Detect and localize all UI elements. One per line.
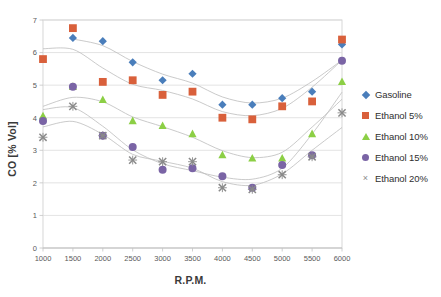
data-point-ethanol-5 — [248, 115, 256, 123]
x-tick-label: 3500 — [184, 254, 201, 263]
x-axis-title: R.P.M. — [175, 274, 207, 286]
x-tick-label: 3000 — [154, 254, 171, 263]
data-point-ethanol-20 — [278, 170, 287, 179]
data-point-ethanol-5 — [69, 24, 77, 32]
data-point-ethanol-5 — [129, 76, 137, 84]
y-tick-label: 4 — [33, 114, 37, 123]
data-point-ethanol-5 — [189, 88, 197, 96]
data-point-ethanol-15 — [278, 161, 286, 169]
y-tick-label: 7 — [33, 16, 37, 25]
data-point-ethanol-5 — [159, 91, 167, 99]
data-point-ethanol-20 — [128, 156, 137, 165]
legend-item-ethanol-5[interactable]: Ethanol 5% — [360, 105, 440, 126]
data-point-ethanol-20 — [218, 183, 227, 192]
data-point-ethanol-20 — [338, 108, 347, 117]
data-point-ethanol-15 — [159, 166, 167, 174]
data-point-ethanol-15 — [218, 172, 226, 180]
data-point-ethanol-15 — [338, 57, 346, 65]
x-tick-label: 5500 — [304, 254, 321, 263]
data-point-ethanol-20 — [69, 102, 78, 111]
x-tick-label: 5000 — [274, 254, 291, 263]
data-point-ethanol-5 — [39, 55, 47, 63]
triangle-icon — [360, 131, 371, 142]
data-point-ethanol-5 — [338, 36, 346, 44]
x-tick-label: 2500 — [124, 254, 141, 263]
data-point-ethanol-15 — [39, 117, 47, 125]
diamond-icon — [360, 89, 371, 100]
data-point-ethanol-5 — [308, 98, 316, 106]
square-icon — [360, 110, 371, 121]
data-point-ethanol-20 — [158, 157, 167, 166]
y-tick-label: 6 — [33, 48, 37, 57]
square-icon-shape — [362, 112, 369, 119]
data-point-ethanol-5 — [99, 78, 107, 86]
legend-item-ethanol-10[interactable]: Ethanol 10% — [360, 126, 440, 147]
legend-item-label: Ethanol 5% — [375, 110, 423, 121]
chart-container: 0123456710001500200025003000350040004500… — [0, 0, 441, 297]
legend-item-label: Ethanol 10% — [375, 131, 428, 142]
data-point-ethanol-15 — [69, 83, 77, 91]
circle-icon — [360, 152, 371, 163]
diamond-icon-shape — [361, 90, 369, 98]
y-tick-label: 2 — [33, 179, 37, 188]
x-tick-label: 4000 — [214, 254, 231, 263]
data-point-ethanol-20 — [39, 133, 48, 142]
x-tick-label: 6000 — [334, 254, 351, 263]
data-point-ethanol-15 — [129, 143, 137, 151]
data-point-ethanol-20 — [308, 152, 317, 161]
data-point-ethanol-20 — [188, 157, 197, 166]
x-tick-label: 1500 — [65, 254, 82, 263]
data-point-ethanol-20 — [98, 131, 107, 140]
legend-item-label: Gasoline — [375, 89, 412, 100]
y-tick-label: 0 — [33, 244, 37, 253]
legend-item-gasoline[interactable]: Gasoline — [360, 84, 440, 105]
legend-item-label: Ethanol 15% — [375, 152, 428, 163]
x-tick-label: 2000 — [94, 254, 111, 263]
y-tick-label: 3 — [33, 146, 37, 155]
cross-icon: × — [360, 173, 371, 184]
chart-legend: GasolineEthanol 5%Ethanol 10%Ethanol 15%… — [360, 84, 440, 189]
triangle-icon-shape — [362, 133, 370, 140]
y-tick-label: 1 — [33, 211, 37, 220]
cross-glyph: × — [363, 174, 368, 183]
x-axis-title-wrap: R.P.M. — [0, 274, 441, 286]
circle-icon-shape — [362, 154, 369, 161]
y-tick-label: 5 — [33, 81, 37, 90]
legend-item-ethanol-20[interactable]: ×Ethanol 20% — [360, 168, 440, 189]
x-tick-label: 4500 — [244, 254, 261, 263]
data-point-ethanol-5 — [278, 102, 286, 110]
data-point-ethanol-20 — [248, 185, 257, 194]
legend-item-ethanol-15[interactable]: Ethanol 15% — [360, 147, 440, 168]
x-tick-label: 1000 — [35, 254, 52, 263]
data-point-ethanol-5 — [219, 114, 227, 122]
legend-item-label: Ethanol 20% — [375, 173, 428, 184]
